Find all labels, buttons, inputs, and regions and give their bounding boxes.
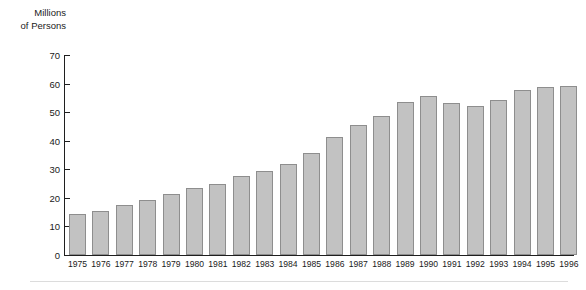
y-tick-mark — [64, 84, 70, 85]
plot-area: 010203040506070 197519761977197819791980… — [64, 55, 574, 256]
x-tick-label: 1987 — [349, 259, 368, 269]
x-tick-label: 1978 — [138, 259, 157, 269]
bar-1978 — [139, 200, 156, 255]
x-tick-label: 1986 — [325, 259, 344, 269]
y-tick-label: 10 — [49, 221, 60, 232]
bar-1977 — [116, 205, 133, 255]
bar-1982 — [233, 176, 250, 255]
y-tick-label: 30 — [49, 164, 60, 175]
x-tick-label: 1984 — [279, 259, 298, 269]
bar-1981 — [209, 184, 226, 255]
bar-1988 — [373, 116, 390, 255]
x-tick-label: 1991 — [442, 259, 461, 269]
bar-1987 — [350, 125, 367, 255]
y-tick-label: 50 — [49, 107, 60, 118]
y-tick-mark — [64, 255, 70, 256]
x-tick-label: 1983 — [255, 259, 274, 269]
bar-1990 — [420, 96, 437, 255]
x-tick-label: 1979 — [162, 259, 181, 269]
x-tick-label: 1988 — [372, 259, 391, 269]
bar-1993 — [490, 100, 507, 255]
bar-1976 — [92, 211, 109, 255]
bar-1991 — [443, 103, 460, 255]
y-tick-label: 40 — [49, 135, 60, 146]
bar-1986 — [326, 137, 343, 255]
y-tick-mark — [64, 198, 70, 199]
x-tick-label: 1975 — [68, 259, 87, 269]
x-tick-label: 1981 — [208, 259, 227, 269]
bar-1994 — [514, 90, 531, 255]
y-axis-title: Millions of Persons — [0, 6, 66, 32]
y-tick-mark — [64, 55, 70, 56]
y-tick-label: 0 — [55, 250, 60, 261]
x-tick-label: 1977 — [115, 259, 134, 269]
y-tick-mark — [64, 112, 70, 113]
footer-divider — [30, 281, 568, 282]
bar-1983 — [256, 171, 273, 255]
y-tick-label: 70 — [49, 50, 60, 61]
bar-1996 — [560, 86, 577, 255]
bar-1985 — [303, 153, 320, 255]
y-tick-label: 20 — [49, 192, 60, 203]
x-axis-line — [64, 255, 574, 256]
y-tick-label: 60 — [49, 78, 60, 89]
x-tick-label: 1993 — [489, 259, 508, 269]
bar-1975 — [69, 214, 86, 255]
x-tick-label: 1995 — [536, 259, 555, 269]
x-tick-label: 1976 — [91, 259, 110, 269]
y-tick-mark — [64, 141, 70, 142]
bar-1980 — [186, 188, 203, 255]
bar-1992 — [467, 106, 484, 255]
bar-1989 — [397, 102, 414, 255]
bar-1984 — [280, 164, 297, 255]
bar-1979 — [163, 194, 180, 255]
bar-1995 — [537, 87, 554, 255]
x-tick-label: 1985 — [302, 259, 321, 269]
x-tick-label: 1996 — [559, 259, 578, 269]
y-tick-mark — [64, 169, 70, 170]
chart-figure: Millions of Persons 010203040506070 1975… — [0, 0, 586, 290]
x-tick-label: 1989 — [396, 259, 415, 269]
x-tick-label: 1990 — [419, 259, 438, 269]
x-tick-label: 1994 — [513, 259, 532, 269]
x-tick-label: 1980 — [185, 259, 204, 269]
x-tick-label: 1982 — [232, 259, 251, 269]
x-tick-label: 1992 — [466, 259, 485, 269]
